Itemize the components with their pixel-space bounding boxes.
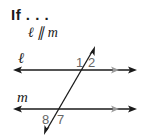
line-l: [13, 67, 137, 74]
angle-label-8: 8: [42, 112, 49, 127]
label-line-m: m: [17, 89, 28, 105]
angle-label-1: 1: [76, 55, 83, 70]
line-m: [13, 106, 137, 113]
parallel-lines-diagram: ℓ m 1 2 8 7: [0, 0, 147, 136]
angle-label-7: 7: [57, 112, 64, 127]
angle-label-2: 2: [88, 55, 95, 70]
label-line-l: ℓ: [18, 50, 24, 66]
